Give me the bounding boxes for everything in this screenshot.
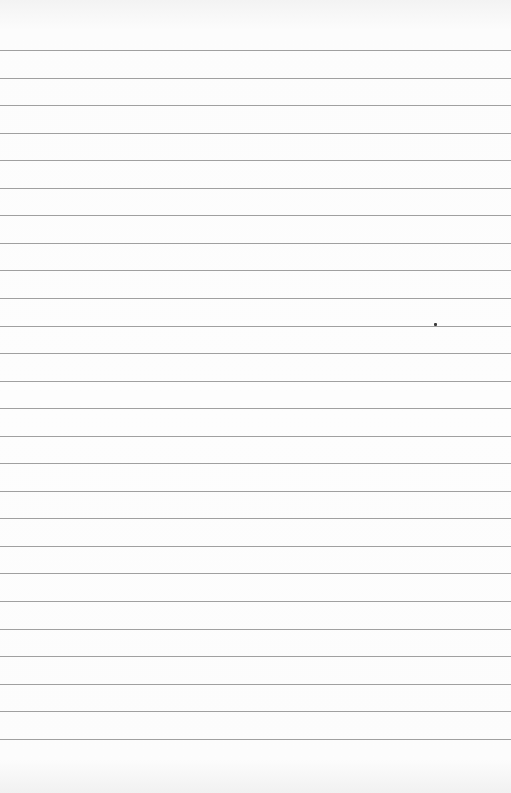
ruled-line: [0, 408, 511, 409]
ruled-line: [0, 739, 511, 740]
ruled-line: [0, 133, 511, 134]
ruled-line: [0, 711, 511, 712]
ruled-line: [0, 160, 511, 161]
ruled-line: [0, 491, 511, 492]
ruled-line: [0, 436, 511, 437]
ruled-line: [0, 50, 511, 51]
lined-paper-sheet: [0, 0, 511, 793]
ruled-line: [0, 629, 511, 630]
pencil-mark: [434, 323, 437, 326]
ruled-line: [0, 326, 511, 327]
ruled-line: [0, 601, 511, 602]
ruled-line: [0, 243, 511, 244]
ruled-line: [0, 188, 511, 189]
ruled-line: [0, 215, 511, 216]
ruled-line: [0, 684, 511, 685]
ruled-line: [0, 353, 511, 354]
ruled-line: [0, 270, 511, 271]
ruled-line: [0, 463, 511, 464]
ruled-line: [0, 298, 511, 299]
ruled-line: [0, 518, 511, 519]
ruled-line: [0, 381, 511, 382]
ruled-line: [0, 546, 511, 547]
ruled-line: [0, 105, 511, 106]
ruled-line: [0, 78, 511, 79]
ruled-line: [0, 573, 511, 574]
ruled-line: [0, 656, 511, 657]
